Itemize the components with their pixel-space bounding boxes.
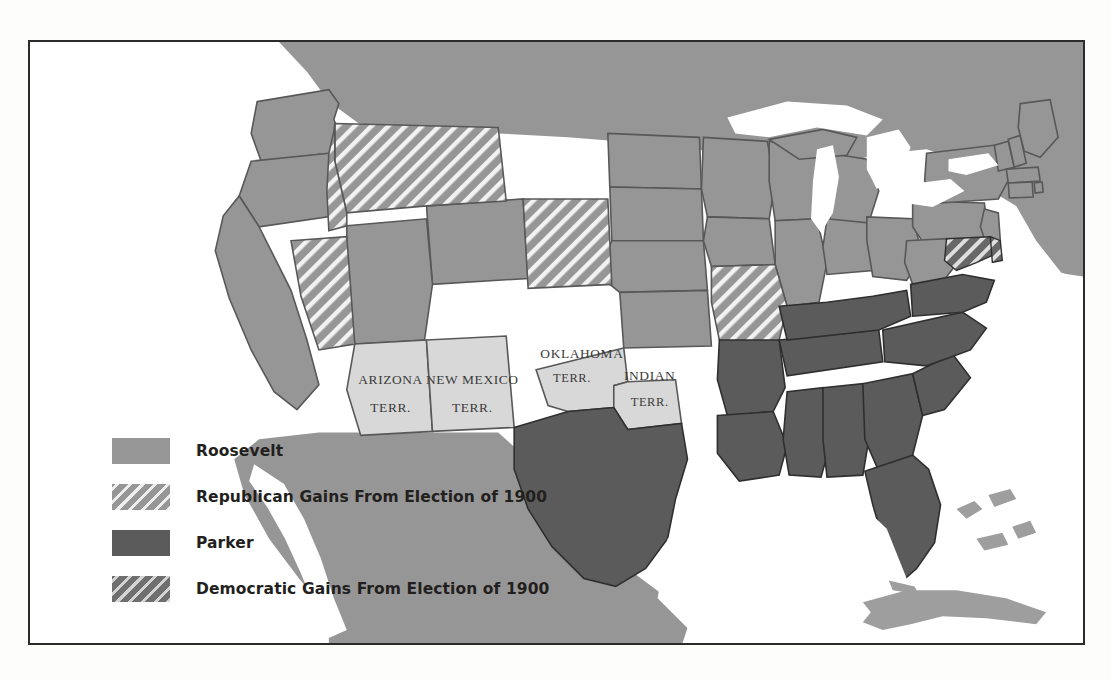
lake-huron bbox=[867, 129, 911, 189]
legend-swatch-democratic-gains bbox=[112, 576, 170, 602]
state-wyoming bbox=[426, 199, 528, 284]
legend-label-republican-gains: Republican Gains From Election of 1900 bbox=[196, 488, 547, 506]
state-iowa bbox=[703, 217, 775, 267]
state-massachusetts bbox=[1006, 167, 1040, 183]
state-kansas bbox=[620, 290, 712, 348]
legend-item-republican-gains: Republican Gains From Election of 1900 bbox=[112, 478, 582, 516]
label-oklahoma-line2: TERR. bbox=[553, 371, 591, 385]
legend-label-democratic-gains: Democratic Gains From Election of 1900 bbox=[196, 580, 550, 598]
state-delaware bbox=[990, 237, 1002, 263]
state-north-dakota bbox=[608, 133, 702, 189]
legend-swatch-parker bbox=[112, 530, 170, 556]
state-minnesota bbox=[701, 137, 775, 218]
election-map-figure: ARIZONA TERR. NEW MEXICO TERR. OKLAHOMA … bbox=[0, 0, 1111, 680]
state-indiana bbox=[823, 219, 873, 275]
legend-label-roosevelt: Roosevelt bbox=[196, 442, 283, 460]
label-indian-line1: INDIAN bbox=[624, 368, 675, 383]
legend-swatch-republican-gains bbox=[112, 484, 170, 510]
state-oregon bbox=[239, 153, 335, 227]
territory-arizona bbox=[347, 340, 433, 435]
state-mississippi bbox=[783, 388, 829, 477]
label-arizona-line1: ARIZONA bbox=[358, 372, 423, 387]
label-indian-line2: TERR. bbox=[631, 395, 669, 409]
state-arkansas bbox=[717, 340, 785, 415]
state-louisiana bbox=[717, 412, 787, 482]
state-rhode-island bbox=[1034, 182, 1043, 193]
label-new-mexico-line1: NEW MEXICO bbox=[426, 372, 519, 387]
state-south-dakota bbox=[610, 187, 704, 241]
label-new-mexico-line2: TERR. bbox=[452, 400, 493, 415]
state-utah bbox=[347, 219, 433, 344]
state-nebraska bbox=[598, 241, 708, 293]
legend-swatch-roosevelt bbox=[112, 438, 170, 464]
legend-item-democratic-gains: Democratic Gains From Election of 1900 bbox=[112, 570, 582, 608]
state-connecticut bbox=[1008, 182, 1033, 198]
map-legend: Roosevelt Republican Gains From Election… bbox=[112, 432, 582, 616]
state-alabama bbox=[823, 384, 869, 477]
state-colorado bbox=[523, 199, 612, 288]
democratic-gain-states bbox=[945, 237, 1003, 271]
label-arizona-line2: TERR. bbox=[370, 400, 411, 415]
state-montana bbox=[335, 123, 506, 212]
legend-item-parker: Parker bbox=[112, 524, 582, 562]
state-missouri bbox=[711, 265, 787, 352]
label-oklahoma-line1: OKLAHOMA bbox=[540, 346, 623, 361]
state-washington bbox=[251, 90, 341, 162]
legend-item-roosevelt: Roosevelt bbox=[112, 432, 582, 470]
legend-label-parker: Parker bbox=[196, 534, 254, 552]
